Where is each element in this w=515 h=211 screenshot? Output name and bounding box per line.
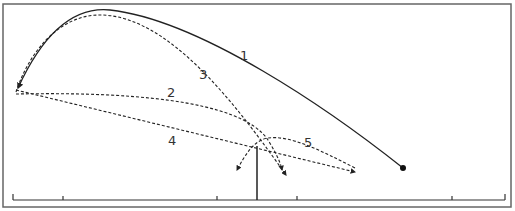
trajectory-label-2: 2 — [167, 85, 175, 100]
trajectory-label-5: 5 — [304, 135, 312, 150]
trajectory-2 — [16, 94, 282, 170]
trajectory-label-1: 1 — [240, 48, 248, 63]
trajectory-label-4: 4 — [168, 133, 176, 148]
trajectory-label-3: 3 — [199, 67, 207, 82]
trajectory-4 — [16, 90, 355, 172]
trajectory-diagram: 1 2 3 4 5 — [0, 0, 515, 211]
trajectory-3 — [16, 15, 286, 175]
court-baseline — [13, 194, 505, 200]
trajectory-1 — [18, 10, 403, 168]
ball-icon — [400, 165, 406, 171]
trajectory-5 — [237, 138, 355, 170]
